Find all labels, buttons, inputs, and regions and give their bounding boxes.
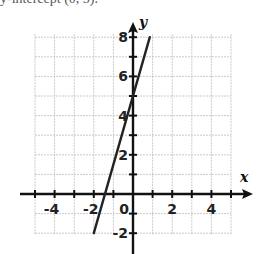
y-tick-label: 6 xyxy=(118,68,128,84)
x-tick-label: 4 xyxy=(207,201,217,217)
x-tick-label: 2 xyxy=(167,201,177,217)
x-tick-label: -2 xyxy=(83,201,99,217)
x-axis-label: x xyxy=(239,169,249,185)
x-tick-label: 0 xyxy=(119,201,129,217)
y-tick-label: -2 xyxy=(112,225,128,241)
x-tick-label: -4 xyxy=(44,201,60,217)
y-axis-label: y xyxy=(138,14,148,30)
coordinate-plane: -4-20248642-2 x y xyxy=(0,0,267,254)
y-tick-label: 8 xyxy=(118,29,128,45)
y-tick-label: 2 xyxy=(118,147,128,163)
